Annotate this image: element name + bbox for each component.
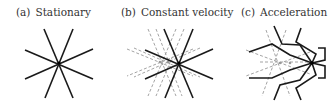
field-diagram [0, 0, 335, 107]
panel-b-charge [177, 61, 180, 64]
panel-a-charge [57, 61, 60, 64]
field-lines-figure: (a)Stationary (b)Constant velocity (c)Ac… [0, 0, 335, 107]
panel-c-dashed-lines [246, 30, 310, 96]
panel-c-charge [310, 61, 314, 65]
